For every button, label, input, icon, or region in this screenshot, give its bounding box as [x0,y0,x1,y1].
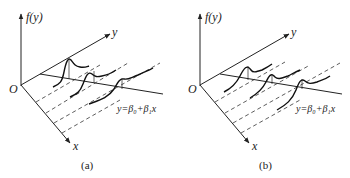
panel-b: f(y) y x O y=β₀+β₁x (b) [188,10,342,172]
regression-line [220,74,342,94]
caption-a: (a) [81,159,94,172]
guide-line [62,100,120,133]
distribution-curve [70,70,116,97]
regression-figure: f(y) y x O y=β₀+β₁x (a) f(y) y x O [0,0,350,178]
fy-axis-label: f(y) [205,10,222,24]
fy-axis-label: f(y) [26,10,43,24]
x-axis-label: x [72,139,79,153]
origin-label: O [188,82,197,96]
regression-equation: y=β₀+β₁x [295,103,336,114]
origin-label: O [9,82,18,96]
panel-a: f(y) y x O y=β₀+β₁x (a) [9,10,163,172]
caption-b: (b) [259,159,272,172]
guide-line [233,63,340,123]
x-axis [21,85,70,143]
y-axis [21,34,110,85]
guide-line [241,100,300,133]
regression-equation: y=β₀+β₁x [116,103,157,114]
x-axis [200,85,249,143]
x-axis-label: x [251,139,258,153]
y-axis-label: y [290,25,297,39]
y-axis-label: y [111,25,118,39]
distribution-curve [89,68,153,104]
distribution-curve [250,70,300,98]
